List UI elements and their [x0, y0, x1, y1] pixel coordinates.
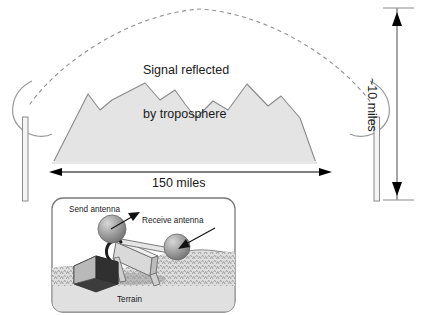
height-dimension-label: ~10 miles	[364, 78, 379, 132]
troposcatter-diagram: Signal reflected by troposphere 150 mile…	[0, 0, 427, 315]
troposphere-label: Signal reflected by troposphere	[143, 33, 229, 151]
troposphere-label-line1: Signal reflected	[143, 63, 229, 78]
troposphere-label-line2: by troposphere	[143, 107, 229, 122]
terrain-label: Terrain	[117, 295, 142, 305]
height-dimension	[383, 8, 414, 200]
receive-antenna-label: Receive antenna	[142, 216, 203, 226]
distance-dimension	[49, 168, 332, 176]
left-antenna-station	[13, 81, 52, 201]
send-antenna-label: Send antenna	[69, 205, 120, 215]
distance-dimension-label: 150 miles	[152, 176, 206, 191]
